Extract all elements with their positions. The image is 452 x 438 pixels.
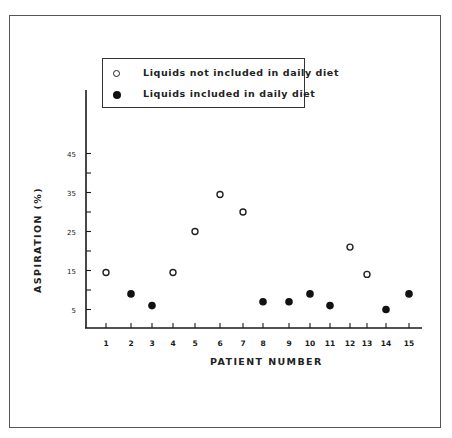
open-circle-marker bbox=[347, 244, 353, 250]
x-tick-label: 4 bbox=[170, 339, 175, 348]
x-tick-label: 3 bbox=[149, 339, 154, 348]
y-tick-label: 35 bbox=[67, 190, 76, 198]
x-tick-label: 11 bbox=[325, 339, 335, 348]
x-tick-label: 13 bbox=[362, 339, 372, 348]
open-circle-marker bbox=[364, 271, 370, 277]
filled-circle-marker bbox=[127, 290, 135, 298]
x-tick-label: 10 bbox=[305, 339, 315, 348]
filled-circle-marker bbox=[148, 302, 156, 310]
legend-label-included: Liquids included in daily diet bbox=[143, 88, 316, 99]
y-axis-title: ASPIRATION (%) bbox=[32, 187, 43, 293]
x-tick-label: 2 bbox=[128, 339, 133, 348]
open-circle-marker bbox=[103, 269, 109, 275]
x-tick-label: 8 bbox=[260, 339, 265, 348]
filled-circle-marker bbox=[405, 290, 413, 298]
x-axis-title: PATIENT NUMBER bbox=[210, 356, 323, 367]
x-tick-label: 15 bbox=[404, 339, 414, 348]
open-circle-marker bbox=[240, 209, 246, 215]
y-tick-label: 15 bbox=[67, 268, 76, 276]
filled-circle-marker bbox=[306, 290, 314, 298]
x-tick-label: 14 bbox=[381, 339, 391, 348]
open-circle-icon bbox=[113, 70, 120, 77]
filled-circle-marker bbox=[382, 306, 390, 314]
legend-item-open: Liquids not included in daily diet bbox=[103, 67, 304, 81]
x-tick-label: 7 bbox=[240, 339, 245, 348]
filled-circle-marker bbox=[285, 298, 293, 306]
open-circle-marker bbox=[217, 191, 223, 197]
y-tick-label: 45 bbox=[67, 151, 76, 159]
x-tick-label: 12 bbox=[345, 339, 355, 348]
y-tick-label: 5 bbox=[72, 307, 76, 315]
legend-label-not-included: Liquids not included in daily diet bbox=[143, 67, 339, 78]
legend-item-filled: Liquids included in daily diet bbox=[103, 88, 304, 102]
x-tick-label: 9 bbox=[286, 339, 291, 348]
x-tick-label: 1 bbox=[103, 339, 108, 348]
y-tick-label: 25 bbox=[67, 229, 76, 237]
filled-circle-marker bbox=[326, 302, 334, 310]
x-tick-label: 5 bbox=[192, 339, 197, 348]
legend: Liquids not included in daily diet Liqui… bbox=[102, 58, 305, 108]
open-circle-marker bbox=[170, 269, 176, 275]
filled-circle-marker bbox=[259, 298, 267, 306]
filled-circle-icon bbox=[113, 91, 121, 99]
x-tick-label: 6 bbox=[217, 339, 222, 348]
open-circle-marker bbox=[192, 229, 198, 235]
